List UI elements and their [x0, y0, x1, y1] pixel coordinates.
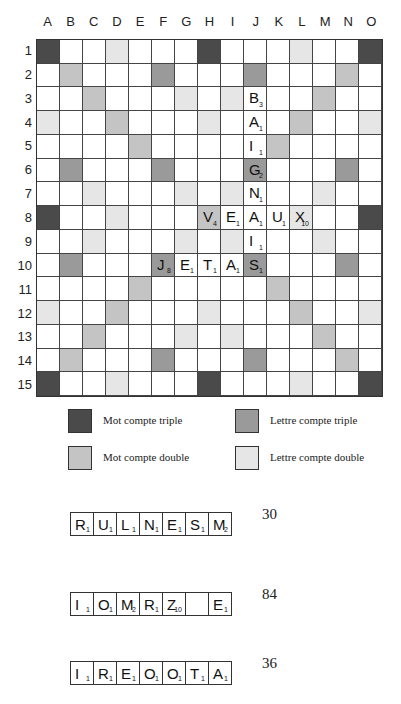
board-cell-A1[interactable] — [37, 40, 60, 64]
board-cell-M11[interactable] — [313, 277, 336, 301]
board-cell-G11[interactable] — [175, 277, 198, 301]
rack-tile[interactable]: I1 — [71, 661, 94, 685]
board-cell-O1[interactable] — [359, 40, 382, 64]
board-cell-K14[interactable] — [267, 349, 290, 373]
board-cell-F5[interactable] — [152, 135, 175, 159]
board-cell-M5[interactable] — [313, 135, 336, 159]
board-cell-K11[interactable] — [267, 277, 290, 301]
board-cell-H12[interactable] — [198, 301, 221, 325]
board-cell-E6[interactable] — [129, 159, 152, 183]
board-cell-C2[interactable] — [83, 64, 106, 88]
board-cell-F1[interactable] — [152, 40, 175, 64]
board-cell-N4[interactable] — [336, 111, 359, 135]
board-cell-C1[interactable] — [83, 40, 106, 64]
board-cell-A2[interactable] — [37, 64, 60, 88]
board-cell-M13[interactable] — [313, 325, 336, 349]
board-cell-J14[interactable] — [244, 349, 267, 373]
board-cell-G7[interactable] — [175, 182, 198, 206]
board-cell-H1[interactable] — [198, 40, 221, 64]
board-cell-F13[interactable] — [152, 325, 175, 349]
rack-tile[interactable] — [186, 592, 209, 616]
board-cell-B10[interactable] — [60, 254, 83, 278]
board-cell-L6[interactable] — [290, 159, 313, 183]
board-cell-N7[interactable] — [336, 182, 359, 206]
board-cell-E12[interactable] — [129, 301, 152, 325]
rack-tile[interactable]: T1 — [186, 661, 209, 685]
board-cell-C12[interactable] — [83, 301, 106, 325]
board-cell-N9[interactable] — [336, 230, 359, 254]
board-cell-C6[interactable] — [83, 159, 106, 183]
rack-tile[interactable]: L1 — [117, 512, 140, 536]
board-cell-E14[interactable] — [129, 349, 152, 373]
board-cell-G4[interactable] — [175, 111, 198, 135]
board-cell-I3[interactable] — [221, 87, 244, 111]
rack-tile[interactable]: S1 — [186, 512, 209, 536]
rack-tile[interactable]: I1 — [71, 592, 94, 616]
board-cell-D8[interactable] — [106, 206, 129, 230]
board-cell-I14[interactable] — [221, 349, 244, 373]
board-cell-L15[interactable] — [290, 372, 313, 396]
board-cell-D7[interactable] — [106, 182, 129, 206]
board-cell-H6[interactable] — [198, 159, 221, 183]
board-cell-D3[interactable] — [106, 87, 129, 111]
board-cell-A12[interactable] — [37, 301, 60, 325]
board-cell-D12[interactable] — [106, 301, 129, 325]
board-cell-M9[interactable] — [313, 230, 336, 254]
board-cell-B4[interactable] — [60, 111, 83, 135]
board-cell-A5[interactable] — [37, 135, 60, 159]
board-cell-A4[interactable] — [37, 111, 60, 135]
board-cell-B9[interactable] — [60, 230, 83, 254]
board-cell-B5[interactable] — [60, 135, 83, 159]
board-cell-E3[interactable] — [129, 87, 152, 111]
board-cell-G5[interactable] — [175, 135, 198, 159]
board-cell-I13[interactable] — [221, 325, 244, 349]
board-cell-J7[interactable]: N1 — [244, 182, 267, 206]
board-cell-C9[interactable] — [83, 230, 106, 254]
board-cell-I10[interactable]: A1 — [221, 254, 244, 278]
rack-tile[interactable]: R1 — [94, 661, 117, 685]
rack-tile[interactable]: O1 — [163, 661, 186, 685]
board-cell-I1[interactable] — [221, 40, 244, 64]
board-cell-O2[interactable] — [359, 64, 382, 88]
board-cell-M10[interactable] — [313, 254, 336, 278]
board-cell-C14[interactable] — [83, 349, 106, 373]
board-cell-D10[interactable] — [106, 254, 129, 278]
board-cell-K13[interactable] — [267, 325, 290, 349]
board-cell-L14[interactable] — [290, 349, 313, 373]
board-cell-O8[interactable] — [359, 206, 382, 230]
board-cell-B15[interactable] — [60, 372, 83, 396]
board-cell-C4[interactable] — [83, 111, 106, 135]
board-cell-O7[interactable] — [359, 182, 382, 206]
board-cell-I8[interactable]: E1 — [221, 206, 244, 230]
board-cell-G14[interactable] — [175, 349, 198, 373]
board-cell-H11[interactable] — [198, 277, 221, 301]
board-cell-F3[interactable] — [152, 87, 175, 111]
board-cell-J9[interactable]: I1 — [244, 230, 267, 254]
board-cell-B6[interactable] — [60, 159, 83, 183]
board-cell-N14[interactable] — [336, 349, 359, 373]
board-cell-L5[interactable] — [290, 135, 313, 159]
board-cell-D2[interactable] — [106, 64, 129, 88]
board-cell-E8[interactable] — [129, 206, 152, 230]
board-cell-D5[interactable] — [106, 135, 129, 159]
board-cell-E9[interactable] — [129, 230, 152, 254]
board-cell-B7[interactable] — [60, 182, 83, 206]
board-cell-L13[interactable] — [290, 325, 313, 349]
board-cell-N11[interactable] — [336, 277, 359, 301]
board-cell-N12[interactable] — [336, 301, 359, 325]
board-cell-A11[interactable] — [37, 277, 60, 301]
board-cell-E1[interactable] — [129, 40, 152, 64]
board-cell-F8[interactable] — [152, 206, 175, 230]
board-cell-F6[interactable] — [152, 159, 175, 183]
board-cell-F14[interactable] — [152, 349, 175, 373]
board-cell-O12[interactable] — [359, 301, 382, 325]
board-cell-E11[interactable] — [129, 277, 152, 301]
board-cell-I6[interactable] — [221, 159, 244, 183]
board-cell-L10[interactable] — [290, 254, 313, 278]
board-cell-K12[interactable] — [267, 301, 290, 325]
board-cell-G8[interactable] — [175, 206, 198, 230]
board-cell-A10[interactable] — [37, 254, 60, 278]
rack-tile[interactable]: M2 — [209, 512, 232, 536]
rack-tile[interactable]: R1 — [71, 512, 94, 536]
board-cell-K1[interactable] — [267, 40, 290, 64]
